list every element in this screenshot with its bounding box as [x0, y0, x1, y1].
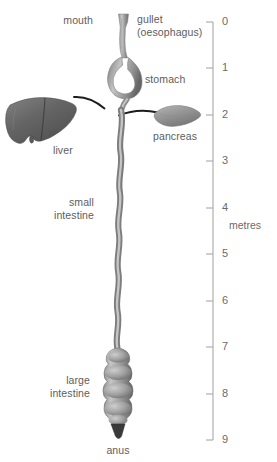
large-intestine-label-line2: intestine	[32, 387, 90, 400]
small-intestine-label-line2: intestine	[36, 209, 94, 222]
large-intestine-organ	[103, 348, 133, 426]
tick-label-1: 1	[222, 62, 228, 73]
liver-organ	[6, 98, 77, 144]
stomach-label: stomach	[145, 73, 185, 86]
tick-label-9: 9	[222, 434, 228, 445]
digestive-system-figure: mouth gullet (oesophagus) stomach liver …	[0, 0, 277, 462]
pancreas-label: pancreas	[153, 130, 197, 143]
scale-unit-label: metres	[229, 220, 261, 231]
small-intestine-organ	[117, 110, 124, 348]
liver-label: liver	[53, 144, 73, 157]
metre-scale-axis	[206, 22, 213, 440]
tick-label-3: 3	[222, 155, 228, 166]
stomach-organ	[108, 57, 143, 111]
anus-label: anus	[96, 444, 140, 457]
gullet-label-line2: (oesophagus)	[137, 26, 202, 39]
pancreas-organ	[154, 105, 201, 126]
tick-label-6: 6	[222, 295, 228, 306]
tick-label-0: 0	[222, 16, 228, 27]
anus-organ	[111, 424, 125, 439]
gullet-label-line1: gullet	[137, 13, 163, 26]
tick-label-5: 5	[222, 248, 228, 259]
large-intestine-label-line1: large	[46, 374, 90, 387]
gullet-organ	[119, 14, 129, 58]
small-intestine-label-line1: small	[46, 196, 94, 209]
tick-label-2: 2	[222, 109, 228, 120]
tick-label-7: 7	[222, 341, 228, 352]
tick-label-4: 4	[222, 202, 228, 213]
tick-label-8: 8	[222, 388, 228, 399]
liver-pointer-line	[74, 97, 105, 109]
mouth-label: mouth	[49, 14, 93, 27]
